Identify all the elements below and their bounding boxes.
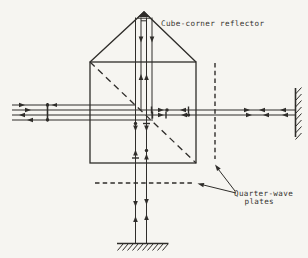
reference-mirror-bottom: [117, 244, 169, 251]
polarization-markers: [46, 103, 190, 158]
label-leader-arrows: [198, 165, 237, 194]
reflector-apex-cap: [138, 11, 150, 17]
beam-splitter-diagonal: [90, 62, 196, 163]
mirror-right-hatching: [296, 88, 302, 140]
cube-corner-reflector-label: Cube-corner reflector: [161, 19, 264, 28]
interferometer-diagram: Cube-corner reflector Quarter-wave plate…: [0, 0, 308, 258]
reference-mirror-right: [296, 88, 302, 140]
quarter-wave-label-line2: plates: [245, 197, 275, 206]
diagram-canvas: Cube-corner reflector Quarter-wave plate…: [0, 0, 308, 258]
laser-beam-paths: [12, 18, 295, 244]
beam-splitter-cube: [90, 62, 196, 163]
quarter-wave-plates-label: Quarter-wave plates: [234, 189, 293, 206]
mirror-bottom-hatching: [118, 244, 169, 251]
